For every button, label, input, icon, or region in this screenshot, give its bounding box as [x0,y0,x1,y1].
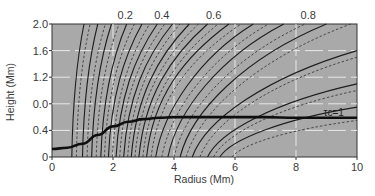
x-tick-label: 4 [171,161,177,173]
x-tick-label: 10 [351,161,363,173]
y-tick-label: 0 [42,151,48,163]
y-tick-label: 1.2 [33,71,48,83]
x-axis-ticks: 0246810 [49,157,363,173]
top-axis-label: 0.2 [118,9,133,21]
top-axis-label: 0.6 [206,9,221,21]
top-axis-labels: 0.20.40.60.8 [118,9,316,21]
y-tick-label: 0.4 [33,124,48,136]
x-axis-title: Radius (Mm) [174,173,234,185]
y-axis-ticks: 00.40.01.21.62.0 [33,18,52,163]
y-tick-label: 2.0 [33,18,48,30]
x-tick-label: 0 [49,161,55,173]
top-axis-label: 0.8 [301,9,316,21]
x-tick-label: 8 [293,161,299,173]
x-tick-label: 2 [110,161,116,173]
tau-annotation: τc=1 [323,107,344,118]
y-tick-label: 1.6 [33,45,48,57]
top-axis-label: 0.4 [154,9,169,21]
flux-tube-chart: 0246810 00.40.01.21.62.0 0.20.40.60.8 τc… [0,0,375,196]
y-axis-title: Height (Mm) [4,63,16,121]
x-tick-label: 6 [232,161,238,173]
y-tick-label: 0.0 [33,98,48,110]
